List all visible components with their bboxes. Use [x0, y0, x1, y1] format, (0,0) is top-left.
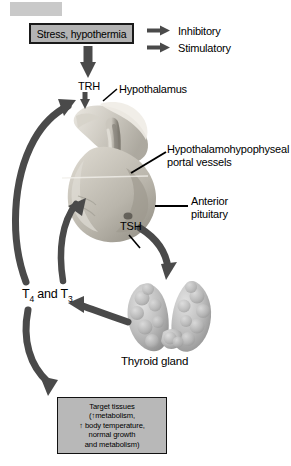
label-portal-vessels-line1: Hypothalamohypophyseal [167, 143, 289, 156]
label-portal-vessels: Hypothalamohypophyseal portal vessels [167, 143, 289, 169]
label-portal-vessels-line2: portal vessels [167, 156, 289, 169]
target-tissues-line4: normal growth [79, 430, 145, 440]
arrow-t4t3-to-target-tissues [26, 310, 58, 396]
label-thyroid-gland: Thyroid gland [121, 355, 188, 368]
legend-item-inhibitory: Inhibitory [147, 23, 287, 38]
arrow-stress-to-trh [80, 46, 96, 78]
label-t3-subscript: 3 [68, 294, 73, 304]
arrow-right-icon [147, 42, 171, 53]
leader-line-hypothalamus [103, 89, 117, 101]
label-tsh: TSH [120, 220, 141, 233]
arrow-right-icon [147, 25, 171, 36]
stimulus-box: Stress, hypothermia [29, 23, 134, 44]
label-anterior-pituitary-line1: Anterior [191, 195, 228, 208]
target-tissues-line5: and metabolism) [79, 440, 145, 450]
stimulus-label: Stress, hypothermia [37, 28, 127, 40]
arrow-thyroid-to-t4t3 [68, 296, 128, 322]
legend-label-inhibitory: Inhibitory [178, 25, 221, 37]
label-t4-and-t3: T4 and T3 [22, 288, 73, 306]
leader-line-tsh [129, 235, 140, 248]
label-anterior-pituitary: Anterior pituitary [191, 195, 228, 221]
arrow-tsh-to-thyroid [140, 228, 177, 280]
legend: Inhibitory Stimulatory [147, 23, 287, 57]
target-tissues-line3: ↑ body temperature, [79, 421, 145, 431]
legend-label-stimulatory: Stimulatory [178, 42, 231, 54]
arrow-feedback-to-pituitary [61, 198, 86, 281]
label-anterior-pituitary-line2: pituitary [191, 208, 228, 221]
target-tissues-line1: Target tissues [79, 402, 145, 412]
label-t4t3-conjunction: and T [34, 287, 68, 301]
target-tissues-box: Target tissues (↑metabolism, ↑ body temp… [57, 397, 167, 454]
arrow-trh-to-pituitary [80, 92, 90, 109]
target-tissues-text: Target tissues (↑metabolism, ↑ body temp… [76, 402, 148, 450]
target-tissues-line2: (↑metabolism, [79, 411, 145, 421]
thyroid-axis-diagram: Stress, hypothermia Inhibitory Stimulato… [0, 0, 291, 466]
arrow-feedback-to-hypothalamus [16, 99, 76, 282]
thyroid-gland-illustration [128, 281, 212, 352]
label-trh: TRH [78, 80, 100, 93]
label-hypothalamus: Hypothalamus [119, 83, 187, 96]
legend-item-stimulatory: Stimulatory [147, 40, 287, 55]
